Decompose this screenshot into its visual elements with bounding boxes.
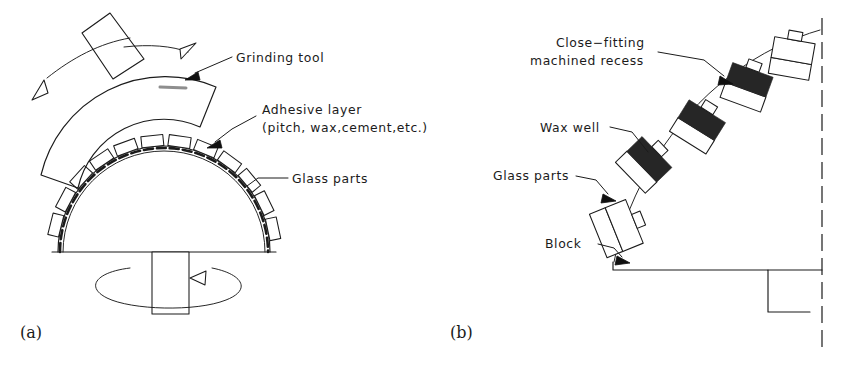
adhesive-layer-label: Adhesive layer [262, 102, 362, 117]
tool-contact-patch [160, 87, 186, 88]
close-fitting-recess-label-line2: machined recess [530, 53, 644, 68]
label-adhesive-layer: Adhesive layer (pitch, wax,cement,etc.) [207, 102, 428, 148]
block-assembly [669, 92, 730, 154]
grinding-tool-label: Grinding tool [236, 50, 324, 65]
wax-well [788, 30, 803, 41]
panel-a: Grinding tool Adhesive layer (pitch, wax… [20, 13, 428, 342]
adhesive-layer-detail-label: (pitch, wax,cement,etc.) [262, 120, 428, 135]
glass-part [254, 191, 274, 216]
leader-glass-parts-b [576, 176, 608, 194]
glass-parts-label-b: Glass parts [493, 168, 569, 183]
block-assembly [589, 196, 651, 258]
leader-adhesive-layer [215, 116, 256, 142]
glass-part [194, 139, 219, 157]
fixture-base [613, 262, 822, 312]
tool-oscillation-arrow [32, 38, 196, 100]
leader-arrowhead-glass-parts-b [601, 194, 616, 203]
leader-grinding-tool [195, 57, 232, 73]
block-label: Block [545, 236, 582, 251]
spindle-rotation-arrowhead [190, 271, 206, 285]
figure-root: Grinding tool Adhesive layer (pitch, wax… [0, 0, 855, 365]
spindle-assembly [96, 252, 242, 314]
glass-part [217, 151, 241, 173]
wax-well-label: Wax well [540, 120, 600, 135]
panel-b: Close−fitting machined recess Wax well G… [450, 18, 822, 352]
glass-part [141, 134, 164, 147]
figure-canvas: Grinding tool Adhesive layer (pitch, wax… [0, 0, 855, 365]
leader-close-fitting-recess [658, 52, 724, 76]
dome-assembly [52, 146, 276, 252]
oscillation-arc-right [124, 46, 188, 52]
label-glass-parts-a: Glass parts [247, 171, 368, 186]
oscillation-arrowhead-right [180, 43, 196, 59]
close-fitting-recess-label-line1: Close−fitting [556, 35, 645, 50]
block-assembly [768, 28, 816, 80]
glass-part [168, 135, 191, 149]
label-glass-parts-b: Glass parts [493, 168, 616, 203]
label-close-fitting-recess: Close−fitting machined recess [530, 35, 733, 85]
block-assembly [615, 130, 678, 193]
grinding-tool [41, 13, 216, 188]
leader-arrowhead-grinding-tool [185, 72, 200, 80]
oscillation-arrowhead-left [32, 80, 48, 100]
glass-parts-label-a: Glass parts [292, 171, 368, 186]
label-grinding-tool: Grinding tool [185, 50, 324, 80]
oscillation-arc [47, 38, 130, 78]
grinding-tool-band [41, 77, 216, 188]
figure-caption-b: (b) [450, 323, 473, 342]
spindle-shaft [152, 252, 189, 314]
leader-arrowhead-block [615, 256, 630, 265]
figure-caption-a: (a) [20, 323, 42, 342]
